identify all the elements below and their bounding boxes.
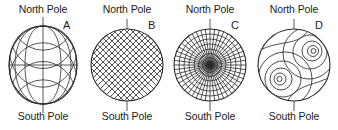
crosshatch-lines xyxy=(88,17,166,113)
north-pole-label: North Pole xyxy=(1,3,85,15)
panel-letter-b: B xyxy=(148,19,155,31)
panel-letter-a: A xyxy=(63,19,70,31)
polar-azimuthal-grid-diagram xyxy=(171,17,249,113)
panel-letter-c: C xyxy=(231,19,239,31)
panel-d: North Pole xyxy=(252,0,336,130)
globe-graticule-diagram xyxy=(4,17,82,113)
contour-group-lower-left xyxy=(258,52,312,106)
diagonal-crosshatch-diagram xyxy=(88,17,166,113)
panel-c: North Pole xyxy=(168,0,252,130)
south-pole-label: South Pole xyxy=(85,110,169,122)
panel-b: North Pole xyxy=(85,0,169,130)
north-pole-label: North Pole xyxy=(168,3,252,15)
linking-arcs xyxy=(258,29,330,105)
panel-letter-d: D xyxy=(315,19,323,31)
north-pole-label: North Pole xyxy=(252,3,336,15)
north-pole-label: North Pole xyxy=(85,3,169,15)
circle-outline xyxy=(91,29,163,101)
pole-center-dot xyxy=(207,62,212,67)
projection-comparison-figure: North Pole xyxy=(0,0,338,130)
south-pole-label: South Pole xyxy=(1,110,85,122)
south-pole-label: South Pole xyxy=(168,110,252,122)
panel-a: North Pole xyxy=(1,0,85,130)
south-pole-label: South Pole xyxy=(252,110,336,122)
offset-contour-circles-diagram xyxy=(255,17,333,113)
